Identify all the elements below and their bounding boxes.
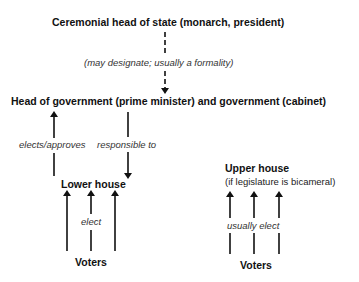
lower-voters-node: Voters [75,257,107,268]
upper-house-note: (if legislature is bicameral) [225,177,335,187]
upper-house-node: Upper house [225,163,289,174]
head-of-state-node: Ceremonial head of state (monarch, presi… [52,17,284,28]
designate-label: (may designate; usually a formality) [84,58,233,68]
upper-voters-node: Voters [240,260,272,271]
government-node: Head of government (prime minister) and … [11,96,326,107]
lower-house-node: Lower house [61,179,126,190]
upper-elect-label: usually elect [227,221,279,231]
lower-elect-label: elect [81,217,101,227]
responsible-to-label: responsible to [97,140,156,150]
elects-approves-label: elects/approves [19,140,86,150]
